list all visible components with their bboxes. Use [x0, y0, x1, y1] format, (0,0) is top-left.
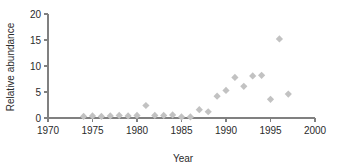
data-point — [249, 72, 256, 79]
ticks-group — [44, 14, 315, 122]
data-point — [240, 83, 247, 90]
data-point — [222, 87, 229, 94]
y-tick-label-10: 10 — [30, 61, 42, 72]
x-tick-label-1995: 1995 — [259, 125, 282, 136]
y-tick-label-15: 15 — [30, 35, 42, 46]
data-point — [142, 102, 149, 109]
data-point — [285, 90, 292, 97]
x-tick-label-1980: 1980 — [126, 125, 149, 136]
data-point — [231, 74, 238, 81]
data-point — [196, 106, 203, 113]
data-point — [214, 93, 221, 100]
data-point — [169, 111, 176, 118]
scatter-chart: 051015201970197519801985199019952000 Rel… — [0, 0, 338, 168]
x-tick-label-2000: 2000 — [304, 125, 327, 136]
x-tick-label-1990: 1990 — [215, 125, 238, 136]
data-point — [205, 108, 212, 115]
x-tick-label-1975: 1975 — [81, 125, 104, 136]
data-point — [98, 113, 105, 120]
x-axis-title: Year — [173, 153, 194, 164]
data-point — [276, 35, 283, 42]
data-point — [80, 113, 87, 120]
x-tick-label-1970: 1970 — [37, 125, 60, 136]
axes-group — [48, 14, 315, 118]
data-point — [267, 96, 274, 103]
y-tick-label-20: 20 — [30, 9, 42, 20]
chart-canvas: 051015201970197519801985199019952000 Rel… — [0, 0, 338, 168]
data-point — [178, 113, 185, 120]
data-point — [258, 72, 265, 79]
y-tick-label-0: 0 — [35, 113, 41, 124]
x-tick-label-1985: 1985 — [170, 125, 193, 136]
data-point — [187, 113, 194, 120]
data-points-group — [80, 35, 292, 120]
y-tick-label-5: 5 — [35, 87, 41, 98]
y-axis-title: Relative abundance — [5, 22, 16, 111]
